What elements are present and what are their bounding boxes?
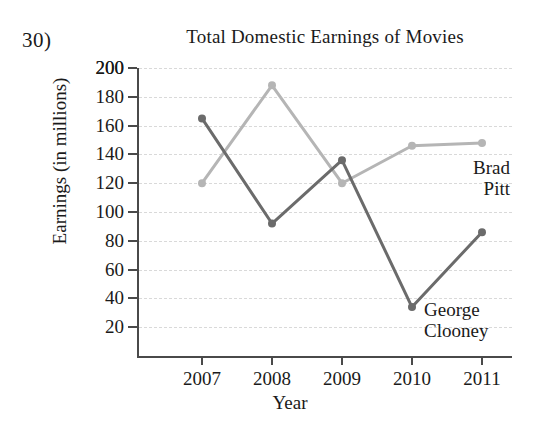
data-point-brad-pitt-2007 — [198, 179, 206, 187]
series-line-brad-pitt — [202, 85, 482, 183]
y-axis-tick-label: 20 — [105, 316, 124, 338]
y-axis-tick-label: 100 — [96, 201, 125, 223]
y-axis-tick — [128, 326, 137, 328]
series-label-line: Pitt — [448, 179, 510, 200]
series-label-line: George — [424, 300, 536, 321]
data-point-george-clooney-2008 — [268, 220, 276, 228]
data-point-brad-pitt-2009 — [338, 179, 346, 187]
data-point-brad-pitt-2010 — [408, 142, 416, 150]
y-axis-tick — [128, 125, 137, 127]
y-axis-tick — [128, 240, 137, 242]
series-label-line: Clooney — [424, 321, 536, 342]
chart-figure: 30) Total Domestic Earnings of Movies Ea… — [0, 0, 542, 432]
y-axis-tick-label: 140 — [96, 143, 125, 165]
y-axis-tick-label: 180 — [96, 86, 125, 108]
y-axis-title: Earnings (in millions) — [49, 46, 71, 276]
series-line-george-clooney — [202, 118, 482, 307]
y-axis-tick — [128, 96, 137, 98]
x-axis-tick-label: 2007 — [183, 368, 221, 390]
y-axis-tick-label: 80 — [105, 230, 124, 252]
y-axis-tick-label: 120 — [96, 172, 125, 194]
y-axis-tick — [128, 153, 137, 155]
data-point-george-clooney-2007 — [198, 114, 206, 122]
chart-title: Total Domestic Earnings of Movies — [140, 26, 510, 48]
y-axis-tick — [128, 269, 137, 271]
x-axis-tick-label: 2008 — [253, 368, 291, 390]
data-point-george-clooney-2010 — [408, 303, 416, 311]
y-axis-tick-label: 40 — [105, 287, 124, 309]
x-axis-tick-label: 2011 — [463, 368, 500, 390]
question-number: 30) — [22, 28, 52, 53]
y-axis-tick-label: 200 — [96, 57, 125, 79]
series-label-brad-pitt: BradPitt — [448, 158, 510, 199]
y-axis-tick-label: 60 — [105, 259, 124, 281]
y-axis-tick — [128, 67, 137, 69]
y-axis-tick — [128, 182, 137, 184]
series-label-george-clooney: GeorgeClooney — [424, 300, 536, 341]
data-point-brad-pitt-2008 — [268, 81, 276, 89]
x-axis-tick-label: 2010 — [393, 368, 431, 390]
y-axis-tick — [128, 211, 137, 213]
data-point-brad-pitt-2011 — [478, 139, 486, 147]
y-axis-tick-label: 160 — [96, 115, 125, 137]
data-point-george-clooney-2009 — [338, 156, 346, 164]
x-axis-title: Year — [200, 392, 380, 414]
series-label-line: Brad — [448, 158, 510, 179]
x-axis-tick-label: 2009 — [323, 368, 361, 390]
data-point-george-clooney-2011 — [478, 228, 486, 236]
y-axis-tick — [128, 297, 137, 299]
